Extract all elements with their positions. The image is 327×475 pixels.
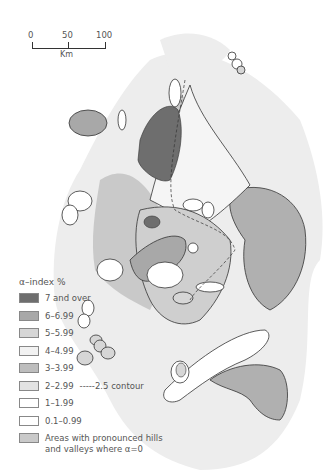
scale-tick-0: 0 — [28, 30, 33, 40]
legend: α–index % 7 and over 6–6.99 5–5.99 4–4.9… — [19, 277, 179, 455]
legend-label: 3–3.99 — [45, 363, 74, 373]
legend-label: 5–5.99 — [45, 328, 74, 338]
scale-line — [32, 42, 106, 49]
legend-label: Areas with pronounced hills and valleys … — [45, 433, 165, 455]
legend-label: 2–2.99 — [45, 381, 74, 391]
scale-bar: 0 50 100 Km — [28, 30, 108, 60]
legend-swatch — [19, 416, 39, 426]
scale-tick-100: 100 — [96, 30, 112, 40]
scale-mid-tick — [68, 42, 69, 48]
legend-label: 4–4.99 — [45, 346, 74, 356]
legend-label: 6–6.99 — [45, 311, 74, 321]
legend-swatch — [19, 381, 39, 391]
legend-swatch — [19, 293, 39, 303]
legend-contour-label: -----2.5 contour — [80, 381, 144, 391]
legend-item: 0.1–0.99 — [19, 416, 179, 434]
legend-swatch — [19, 433, 39, 443]
scale-unit: Km — [60, 50, 73, 59]
legend-swatch — [19, 363, 39, 373]
legend-item: 3–3.99 — [19, 363, 179, 381]
legend-item: 1–1.99 — [19, 398, 179, 416]
legend-label: 0.1–0.99 — [45, 416, 82, 426]
scale-tick-50: 50 — [62, 30, 73, 40]
legend-item: 5–5.99 — [19, 328, 179, 346]
legend-label: 1–1.99 — [45, 398, 74, 408]
legend-item: 2–2.99-----2.5 contour — [19, 381, 179, 399]
legend-swatch — [19, 311, 39, 321]
legend-title: α–index % — [19, 277, 179, 287]
legend-item: Areas with pronounced hills and valleys … — [19, 433, 179, 455]
legend-swatch — [19, 346, 39, 356]
legend-item: 4–4.99 — [19, 346, 179, 364]
legend-label: 7 and over — [45, 293, 91, 303]
legend-item: 7 and over — [19, 293, 179, 311]
legend-item: 6–6.99 — [19, 311, 179, 329]
region-7-and-over-small — [144, 216, 160, 228]
legend-swatch — [19, 328, 39, 338]
legend-swatch — [19, 398, 39, 408]
island-west — [69, 110, 107, 136]
